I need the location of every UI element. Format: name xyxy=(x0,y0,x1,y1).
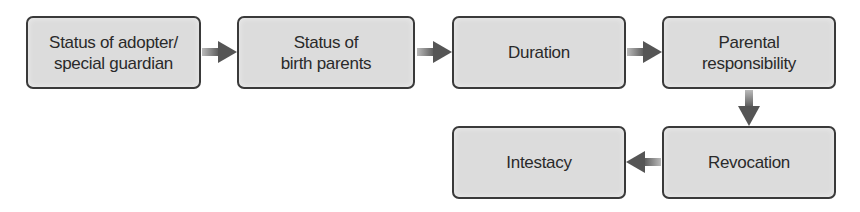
node-status-of-birth-parents: Status of birth parents xyxy=(237,16,415,89)
node-duration: Duration xyxy=(452,16,626,89)
arrow-right-icon xyxy=(415,40,453,64)
arrow-down-icon xyxy=(737,89,761,127)
arrow-right-icon xyxy=(625,40,663,64)
arrow-right-icon xyxy=(200,40,238,64)
node-parental-responsibility: Parental responsibility xyxy=(662,16,836,89)
arrow-left-icon xyxy=(625,150,663,174)
node-revocation: Revocation xyxy=(662,126,836,199)
node-intestacy: Intestacy xyxy=(452,126,626,199)
node-status-of-adopter: Status of adopter/ special guardian xyxy=(26,16,201,89)
